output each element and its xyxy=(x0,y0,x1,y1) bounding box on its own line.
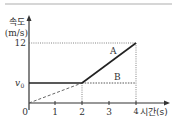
y-tick-12: 12 xyxy=(15,38,26,48)
y-axis-title: 속도 xyxy=(9,17,25,27)
x-tick-label-1: 1 xyxy=(52,107,58,117)
x-axis-arrow-icon xyxy=(164,101,170,106)
y-tick-v0-subscript: 0 xyxy=(21,82,25,89)
line-a xyxy=(82,43,136,83)
y-tick-v0: v xyxy=(15,78,20,88)
line-b-label: B xyxy=(114,72,121,82)
x-axis-title: 시간(s) xyxy=(140,107,168,117)
x-tick-label-3: 3 xyxy=(106,107,112,117)
x-tick-label-4: 4 xyxy=(133,107,138,116)
y-axis-unit: (m/s) xyxy=(5,28,28,38)
dashed-diagonal xyxy=(29,83,82,103)
y-axis-arrow-icon xyxy=(27,15,32,21)
x-tick-label-2: 2 xyxy=(79,107,85,117)
line-a-label: A xyxy=(109,46,117,56)
x-tick-label-0: 0 xyxy=(22,107,28,117)
velocity-time-chart: 속도 (m/s) 12 v 0 0 1 2 3 4 시간(s) A B xyxy=(0,0,179,121)
